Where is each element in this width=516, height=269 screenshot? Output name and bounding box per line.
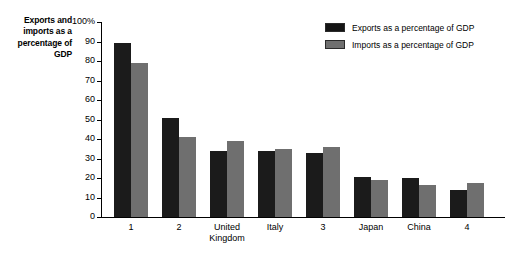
y-tick-label: 80: [85, 55, 95, 66]
bar-imports: [419, 185, 436, 217]
bar-exports: [354, 177, 371, 217]
bar-imports: [371, 180, 388, 217]
bar-group: [114, 22, 148, 217]
legend-label-imports: Imports as a percentage of GDP: [352, 40, 474, 50]
y-tick-label: 70: [85, 75, 95, 86]
y-tick-mark: [97, 139, 101, 140]
y-tick-label: 0: [90, 211, 95, 222]
y-tick-mark: [97, 120, 101, 121]
bar-exports: [402, 178, 419, 217]
legend-swatch-exports-icon: [325, 23, 345, 32]
y-tick-label: 60: [85, 94, 95, 105]
y-tick-mark: [97, 22, 101, 23]
y-tick-label: 40: [85, 133, 95, 144]
y-tick-mark: [97, 100, 101, 101]
bar-imports: [323, 147, 340, 217]
y-tick-label: 30: [85, 153, 95, 164]
bar-imports: [467, 183, 484, 217]
y-tick-label: 10: [85, 192, 95, 203]
y-tick-mark: [97, 217, 101, 218]
y-tick-mark: [97, 198, 101, 199]
legend-item: Imports as a percentage of GDP: [325, 38, 474, 51]
y-tick-label: 50: [85, 114, 95, 125]
bar-group: [162, 22, 196, 217]
x-axis-line: [101, 217, 505, 218]
bar-exports: [306, 153, 323, 217]
bar-chart: Exports and imports as a percentage of G…: [0, 0, 516, 269]
y-tick-label: 100%: [72, 16, 95, 27]
bar-exports: [210, 151, 227, 217]
chart-legend: Exports as a percentage of GDP Imports a…: [325, 21, 474, 55]
y-axis-title: Exports and imports as a percentage of G…: [0, 15, 72, 61]
y-tick-mark: [97, 61, 101, 62]
y-tick-mark: [97, 178, 101, 179]
y-tick-label: 20: [85, 172, 95, 183]
y-tick-mark: [97, 42, 101, 43]
bar-exports: [162, 118, 179, 217]
y-tick-label: 90: [85, 36, 95, 47]
y-tick-mark: [97, 81, 101, 82]
legend-swatch-imports-icon: [325, 40, 345, 49]
legend-item: Exports as a percentage of GDP: [325, 21, 474, 34]
bar-group: [210, 22, 244, 217]
bar-exports: [258, 151, 275, 217]
x-axis-label: 4: [439, 222, 495, 233]
bar-imports: [227, 141, 244, 217]
bar-exports: [450, 190, 467, 217]
bar-imports: [179, 137, 196, 217]
bar-exports: [114, 43, 131, 217]
bar-imports: [131, 63, 148, 217]
y-tick-mark: [97, 159, 101, 160]
bar-imports: [275, 149, 292, 217]
legend-label-exports: Exports as a percentage of GDP: [352, 23, 474, 33]
bar-group: [258, 22, 292, 217]
